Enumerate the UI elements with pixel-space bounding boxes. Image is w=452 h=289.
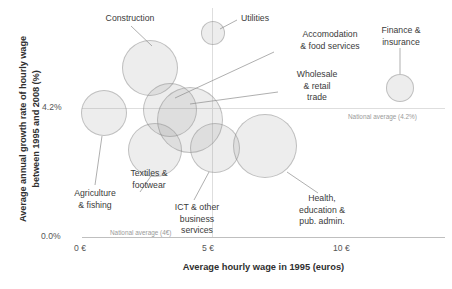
- y-axis-tick-4-2: 4.2%: [42, 102, 62, 112]
- label-finance-insurance: Finance & insurance: [365, 25, 437, 48]
- annotation-national-average-wage: National average (4€): [110, 229, 171, 236]
- x-axis-tick-5: 5 €: [202, 243, 214, 253]
- leader-line-utilities: [220, 20, 237, 29]
- label-agriculture-fishing: Agriculture & fishing: [55, 188, 135, 211]
- label-construction: Construction: [85, 13, 175, 25]
- x-axis-title: Average hourly wage in 1995 (euros): [82, 262, 445, 272]
- leader-line-health: [287, 172, 318, 193]
- leader-line-accomodation: [175, 52, 274, 98]
- x-axis-tick-10: 10 €: [333, 243, 350, 253]
- leader-line-ict: [194, 172, 209, 200]
- leader-line-construction: [131, 26, 152, 46]
- label-utilities: Utilities: [241, 13, 301, 25]
- label-wholesale-retail-trade: Wholesale & retail trade: [281, 69, 353, 104]
- x-axis-tick-0: 0 €: [74, 243, 86, 253]
- bubble-chart: Construction Utilities Accomodation & fo…: [0, 0, 452, 289]
- y-axis-title-line1: Average annual growth rate of hourly wag…: [17, 4, 30, 254]
- annotation-national-average-growth: National average (4.2%): [348, 113, 417, 120]
- y-axis-title-line2: between 1995 and 2008 (%): [30, 4, 43, 254]
- y-axis-title: Average annual growth rate of hourly wag…: [17, 4, 43, 254]
- leader-line-agriculture: [95, 136, 102, 185]
- label-health-education-pub-admin: Health, education & pub. admin.: [283, 193, 361, 228]
- label-textiles-footwear: Textiles & footwear: [113, 168, 185, 191]
- y-axis-tick-0-0: 0.0%: [41, 231, 61, 241]
- leader-line-wholesale: [190, 92, 278, 104]
